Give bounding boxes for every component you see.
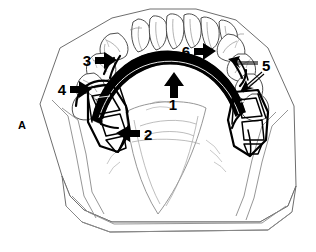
callout-5-label: 5 bbox=[262, 57, 270, 74]
dental-cast-illustration: 1 2 3 4 5 6 bbox=[0, 0, 316, 252]
callout-4-label: 4 bbox=[58, 81, 67, 98]
panel-label: A bbox=[18, 119, 26, 131]
callout-2-label: 2 bbox=[144, 126, 152, 143]
callout-3-label: 3 bbox=[83, 52, 91, 69]
callout-6-label: 6 bbox=[182, 43, 190, 60]
figure-container: 1 2 3 4 5 6 bbox=[0, 0, 316, 252]
callout-1-label: 1 bbox=[169, 96, 177, 113]
